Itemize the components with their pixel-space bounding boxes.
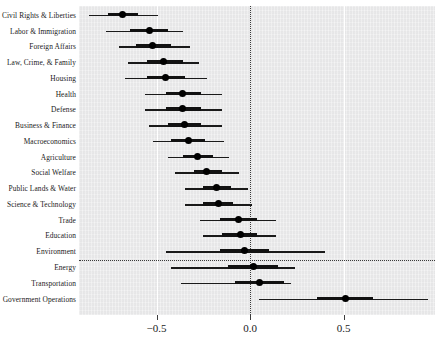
y-axis-label: Law, Crime, & Family (0, 55, 76, 71)
y-axis-label: Government Operations (0, 292, 76, 308)
point-estimate-marker (181, 121, 188, 128)
point-estimate-marker (185, 137, 192, 144)
y-axis-label: Business & Finance (0, 118, 76, 134)
y-axis-label: Defense (0, 102, 76, 118)
point-estimate-marker (203, 168, 210, 175)
y-axis-label: Transportation (0, 276, 76, 292)
estimate-row (79, 181, 435, 197)
estimate-row (79, 71, 435, 87)
estimate-row (79, 260, 435, 276)
point-estimate-marker (250, 263, 257, 270)
estimate-row (79, 150, 435, 166)
y-axis-label: Agriculture (0, 150, 76, 166)
y-axis-label: Housing (0, 71, 76, 87)
point-estimate-marker (194, 153, 201, 160)
point-estimate-marker (179, 90, 186, 97)
estimate-row (79, 39, 435, 55)
estimate-row (79, 87, 435, 103)
estimate-row (79, 8, 435, 24)
x-axis-tick (250, 315, 251, 320)
significance-separator-line (79, 260, 435, 261)
x-axis-tick (157, 315, 158, 320)
y-axis-label: Public Lands & Water (0, 181, 76, 197)
point-estimate-marker (235, 216, 242, 223)
y-axis-label: Social Welfare (0, 165, 76, 181)
y-axis-label: Environment (0, 244, 76, 260)
estimate-row (79, 134, 435, 150)
point-estimate-marker (149, 42, 156, 49)
y-axis-label: Foreign Affairs (0, 39, 76, 55)
estimate-row (79, 197, 435, 213)
point-estimate-marker (215, 200, 222, 207)
point-estimate-marker (146, 27, 153, 34)
point-estimate-marker (179, 105, 186, 112)
estimate-row (79, 213, 435, 229)
coefficient-plot: Civil Rights & LibertiesLabor & Immigrat… (0, 0, 447, 355)
point-estimate-marker (162, 74, 169, 81)
point-estimate-marker (342, 295, 349, 302)
y-axis-label: Civil Rights & Liberties (0, 8, 76, 24)
point-estimate-marker (237, 231, 244, 238)
estimate-row (79, 24, 435, 40)
estimate-row (79, 55, 435, 71)
estimate-row (79, 228, 435, 244)
y-axis-label: Science & Technology (0, 197, 76, 213)
x-axis-tick (344, 315, 345, 320)
y-axis-label: Energy (0, 260, 76, 276)
point-estimate-marker (160, 58, 167, 65)
point-estimate-marker (213, 184, 220, 191)
plot-panel (79, 6, 435, 315)
y-axis-label: Labor & Immigration (0, 24, 76, 40)
y-axis-label: Education (0, 228, 76, 244)
point-estimate-marker (119, 11, 126, 18)
estimate-row (79, 165, 435, 181)
estimate-row (79, 292, 435, 308)
y-axis-label: Macroeconomics (0, 134, 76, 150)
y-axis-label: Health (0, 87, 76, 103)
point-estimate-marker (241, 247, 248, 254)
estimate-row (79, 102, 435, 118)
point-estimate-marker (256, 279, 263, 286)
x-axis-tick-label: 0.5 (337, 322, 351, 334)
estimate-row (79, 276, 435, 292)
x-axis-tick-label: −0.5 (147, 322, 167, 334)
estimate-row (79, 118, 435, 134)
y-axis-category-labels: Civil Rights & LibertiesLabor & Immigrat… (0, 6, 76, 315)
estimate-row (79, 244, 435, 260)
x-axis-tick-label: 0.0 (243, 322, 257, 334)
y-axis-label: Trade (0, 213, 76, 229)
